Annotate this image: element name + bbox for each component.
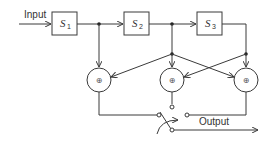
switch-arm: [160, 112, 171, 129]
block-s2-symbol: S: [132, 17, 138, 29]
block-s2-subscript: 2: [139, 23, 143, 30]
plus-icon: ⊕: [169, 76, 176, 85]
block-s3: S 3: [197, 12, 222, 35]
block-s3-symbol: S: [205, 17, 211, 29]
plus-icon: ⊕: [96, 76, 103, 85]
adder-3: ⊕: [234, 68, 258, 92]
plus-icon: ⊕: [243, 76, 250, 85]
block-s1: S 1: [52, 12, 77, 35]
switch-rotation-arrow-icon: [157, 120, 178, 134]
block-s2: S 2: [124, 12, 149, 35]
connector-s3-out: [222, 24, 246, 54]
block-s1-symbol: S: [60, 17, 66, 29]
input-label: Input: [24, 9, 46, 20]
adder-3-to-contact: [189, 92, 246, 115]
block-s3-subscript: 3: [212, 23, 216, 30]
output-label: Output: [199, 116, 229, 127]
switch-contact-3: [185, 113, 189, 117]
switch-pivot: [170, 128, 174, 132]
switch-contact-2: [170, 105, 174, 109]
adder-1: ⊕: [87, 68, 111, 92]
cascade-block-diagram: Input S 1 S 2 S 3 ⊕ ⊕: [0, 0, 276, 150]
switch-contact-1: [157, 113, 161, 117]
adder-1-to-contact: [99, 92, 157, 115]
block-s1-subscript: 1: [67, 23, 71, 30]
adder-2: ⊕: [160, 68, 184, 92]
